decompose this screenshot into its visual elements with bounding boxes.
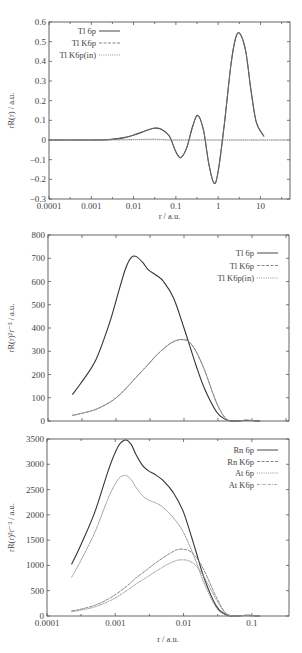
y-tick-label: 0 <box>40 611 45 621</box>
legend-label: At 6p <box>235 468 254 478</box>
y-axis-label: rR(r)²r⁻³ / a.u. <box>6 304 16 353</box>
y-tick-label: 400 <box>32 323 46 333</box>
y-tick-label: 1500 <box>26 535 45 545</box>
y-axis-label: rR(r)²r⁻³ / a.u. <box>6 503 16 552</box>
series-at-k6p <box>72 560 260 616</box>
series-tl-k6p-in- <box>49 139 290 140</box>
y-tick-label: −0.1 <box>30 155 46 165</box>
y-tick-label: 0 <box>42 135 47 145</box>
y-tick-label: 0.4 <box>35 56 47 66</box>
y-tick-label: 3500 <box>26 434 45 444</box>
y-tick-label: 300 <box>32 346 46 356</box>
x-tick-label: 0.001 <box>105 618 125 628</box>
y-tick-label: 100 <box>32 393 46 403</box>
series-tl-k6p-in- <box>73 340 260 422</box>
x-axis-label: r / a.u. <box>159 211 181 221</box>
y-tick-label: 1000 <box>26 560 45 570</box>
legend-label: Rn K6p <box>227 457 254 467</box>
x-tick-label: 0.1 <box>170 201 181 211</box>
legend-label: Rn 6p <box>233 445 254 455</box>
y-tick-label: 2500 <box>26 485 45 495</box>
legend-label: Tl K6p(in) <box>217 273 254 283</box>
x-tick-label: 0.0001 <box>35 618 60 628</box>
y-tick-label: 0.2 <box>35 96 46 106</box>
figure: 0.00010.0010.010.1110−0.3−0.2−0.100.10.2… <box>0 0 302 653</box>
y-tick-label: 200 <box>32 370 46 380</box>
plot-3: 0.00010.0010.010.10500100015002000250030… <box>6 434 289 644</box>
series-tl-k6p <box>73 339 260 421</box>
x-tick-label: 0.01 <box>176 618 192 628</box>
x-tick-label: 10 <box>256 201 266 211</box>
y-axis-label: rR(r) / a.u. <box>6 93 16 129</box>
y-tick-label: 800 <box>32 230 46 240</box>
x-axis-label: r / a.u. <box>157 634 179 644</box>
legend-label: At K6p <box>229 480 254 490</box>
x-tick-label: 0.01 <box>126 201 142 211</box>
legend-label: Tl K6p <box>230 261 254 271</box>
y-tick-label: 0.1 <box>35 115 46 125</box>
y-tick-label: 0.3 <box>35 76 47 86</box>
y-tick-label: 500 <box>31 586 45 596</box>
y-tick-label: 0.5 <box>35 37 47 47</box>
plot-2: 0100200300400500600700800Tl 6pTl K6pTl K… <box>6 230 289 426</box>
y-tick-label: 500 <box>32 300 46 310</box>
plot-1: 0.00010.0010.010.1110−0.3−0.2−0.100.10.2… <box>6 17 290 221</box>
y-tick-label: −0.3 <box>30 194 47 204</box>
x-tick-label: 0.1 <box>246 618 257 628</box>
y-tick-label: 600 <box>32 277 46 287</box>
legend-label: Tl K6p <box>72 38 96 48</box>
x-tick-label: 1 <box>216 201 221 211</box>
y-tick-label: 700 <box>32 253 46 263</box>
y-tick-label: −0.2 <box>30 174 46 184</box>
series-rn-k6p <box>72 549 260 616</box>
legend-label: Tl 6p <box>236 248 254 258</box>
chart-canvas: 0.00010.0010.010.1110−0.3−0.2−0.100.10.2… <box>0 0 302 653</box>
y-tick-label: 3000 <box>26 459 45 469</box>
legend-label: Tl 6p <box>78 26 96 36</box>
y-tick-label: 2000 <box>26 510 45 520</box>
x-tick-label: 0.001 <box>81 201 101 211</box>
y-tick-label: 0 <box>41 416 46 426</box>
legend-label: Tl K6p(in) <box>59 50 96 60</box>
y-tick-label: 0.6 <box>35 17 47 27</box>
